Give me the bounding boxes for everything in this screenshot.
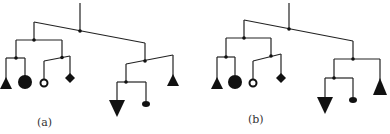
filled-triangle-icon: [167, 74, 179, 86]
diamond-icon: [276, 73, 286, 83]
mobile-diagram: (a) (b): [0, 0, 390, 134]
panel-b-leaves: [211, 73, 387, 114]
hollow-circle-icon: [250, 80, 257, 87]
filled-triangle-icon: [0, 77, 12, 89]
panel-label-b: (b): [248, 113, 264, 126]
panel-label-a: (a): [37, 116, 52, 129]
panel-a-leaves: [0, 73, 179, 117]
hollow-circle-icon: [41, 80, 48, 87]
diamond-icon: [65, 73, 75, 83]
filled-circle-icon: [228, 75, 242, 89]
small-disc-icon: [349, 97, 357, 103]
filled-triangle-icon: [211, 77, 223, 89]
inverted-triangle-icon: [109, 100, 125, 117]
small-disc-icon: [142, 101, 150, 107]
filled-circle-icon: [18, 75, 32, 89]
inverted-triangle-icon: [317, 97, 333, 114]
filled-triangle-icon: [373, 78, 387, 95]
panel-a: [6, 3, 173, 101]
